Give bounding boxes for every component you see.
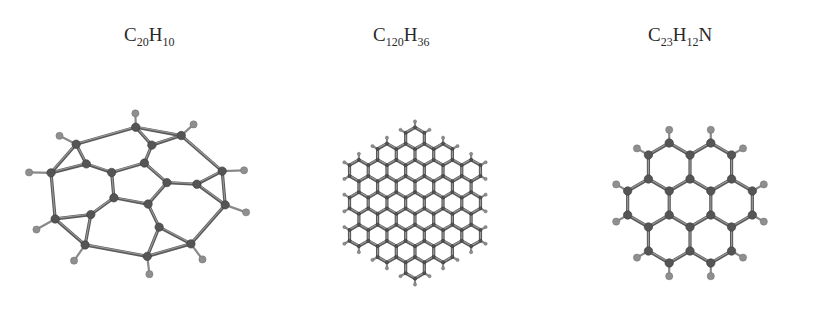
carbon-atom — [727, 175, 735, 183]
carbon-atom — [748, 187, 756, 195]
carbon-atom — [404, 131, 407, 134]
carbon-atom — [110, 194, 118, 202]
carbon-atom — [470, 158, 473, 161]
carbon-atom — [707, 211, 715, 219]
carbon-atom — [404, 142, 407, 145]
carbon-atom — [432, 158, 435, 161]
hydrogen-atom — [484, 193, 487, 196]
carbon-atom — [51, 215, 59, 223]
carbon-atom — [451, 212, 454, 215]
carbon-atom — [144, 200, 152, 208]
carbon-atom — [348, 164, 351, 167]
carbon-atom — [451, 223, 454, 226]
hydrogen-atom — [484, 242, 487, 245]
carbon-atom — [395, 148, 398, 151]
carbon-atom — [395, 256, 398, 259]
carbon-atom — [414, 126, 417, 129]
hydrogen-atom — [146, 271, 153, 278]
carbon-atom — [432, 245, 435, 248]
cc-bond — [114, 198, 148, 204]
carbon-atom — [395, 245, 398, 248]
carbon-atom — [644, 247, 652, 255]
carbon-atom — [107, 168, 115, 176]
carbon-atom — [404, 261, 407, 264]
carbon-atom — [404, 196, 407, 199]
carbon-atom — [367, 229, 370, 232]
hydrogen-atom — [413, 283, 416, 286]
carbon-atom — [686, 151, 694, 159]
cc-bond — [152, 136, 181, 146]
carbon-atom — [748, 211, 756, 219]
carbon-atom — [385, 196, 388, 199]
hydrogen-atom — [707, 273, 714, 280]
carbon-atom — [451, 256, 454, 259]
carbon-atom — [707, 259, 715, 267]
carbon-atom — [470, 212, 473, 215]
carbon-atom — [367, 164, 370, 167]
carbon-atom — [686, 247, 694, 255]
carbon-atom — [479, 196, 482, 199]
carbon-atom — [395, 191, 398, 194]
carbon-atom — [376, 223, 379, 226]
carbon-atom — [221, 201, 229, 209]
carbon-atom — [385, 164, 388, 167]
carbon-atom — [357, 158, 360, 161]
carbon-atom — [72, 140, 80, 148]
carbon-atom — [451, 191, 454, 194]
carbon-atom — [376, 245, 379, 248]
carbon-atom — [395, 158, 398, 161]
hydrogen-atom — [456, 144, 459, 147]
carbon-atom — [385, 239, 388, 242]
hydrogen-atom — [56, 132, 63, 139]
carbon-atom — [357, 191, 360, 194]
carbon-atom — [470, 191, 473, 194]
cc-bond-highlight — [197, 184, 225, 205]
carbon-atom — [395, 180, 398, 183]
carbon-atom — [727, 223, 735, 231]
hydrogen-atom — [739, 145, 746, 152]
cc-bond-highlight — [181, 135, 222, 171]
carbon-atom — [404, 164, 407, 167]
carbon-atom — [376, 180, 379, 183]
carbon-atom — [423, 142, 426, 145]
hydrogen-atom — [399, 275, 402, 278]
carbon-atom — [432, 256, 435, 259]
carbon-atom — [376, 212, 379, 215]
carbon-atom — [367, 196, 370, 199]
carbon-atom — [155, 223, 163, 231]
carbon-atom — [442, 164, 445, 167]
hydrogen-atom — [707, 126, 714, 133]
carbon-atom — [385, 261, 388, 264]
hydrogen-atom — [385, 136, 388, 139]
hydrogen-atom — [132, 110, 139, 117]
hydrogen-atom — [760, 218, 767, 225]
carbon-atom — [470, 245, 473, 248]
carbon-atom — [404, 175, 407, 178]
carbon-atom — [404, 239, 407, 242]
carbon-atom — [470, 180, 473, 183]
carbon-atom — [686, 223, 694, 231]
hydrogen-atom — [739, 254, 746, 261]
carbon-atom — [395, 223, 398, 226]
hydrogen-atom — [199, 256, 206, 263]
carbon-atom — [442, 229, 445, 232]
carbon-atom — [707, 187, 715, 195]
carbon-atom — [404, 229, 407, 232]
carbon-atom — [423, 175, 426, 178]
hydrogen-atom — [385, 267, 388, 270]
carbon-atom — [414, 212, 417, 215]
carbon-atom — [451, 158, 454, 161]
hydrogen-atom — [413, 120, 416, 123]
carbon-atom — [404, 272, 407, 275]
carbon-atom — [414, 191, 417, 194]
carbon-atom — [357, 212, 360, 215]
carbon-atom — [385, 175, 388, 178]
hydrogen-atom — [470, 251, 473, 254]
cc-bond — [112, 163, 145, 172]
carbon-atom — [367, 207, 370, 210]
carbon-atom — [376, 256, 379, 259]
hydrogen-atom — [343, 242, 346, 245]
carbon-atom — [348, 207, 351, 210]
carbon-atom — [727, 247, 735, 255]
carbon-atom — [81, 241, 89, 249]
